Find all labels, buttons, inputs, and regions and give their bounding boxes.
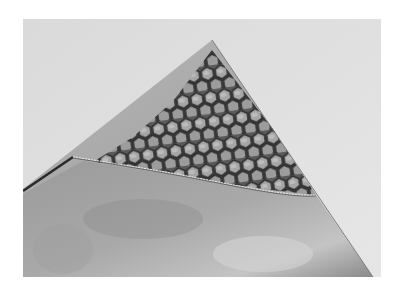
panel-photograph (23, 19, 381, 277)
honeycomb-panel-illustration (23, 19, 381, 277)
